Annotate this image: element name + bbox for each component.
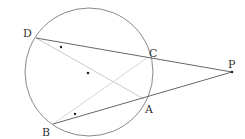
point-p-dot — [231, 71, 234, 74]
circle — [25, 8, 153, 136]
label-a: A — [144, 103, 154, 116]
circle-secant-diagram: D C P A B — [0, 0, 245, 139]
angle-mark-b — [74, 113, 76, 115]
secant-b-p — [53, 72, 232, 124]
angle-mark-d — [60, 46, 62, 48]
center-dot — [87, 72, 90, 75]
label-d: D — [23, 27, 32, 40]
label-c: C — [149, 47, 157, 60]
chord-b-c — [53, 58, 147, 124]
label-b: B — [42, 126, 50, 139]
label-p: P — [228, 58, 236, 71]
